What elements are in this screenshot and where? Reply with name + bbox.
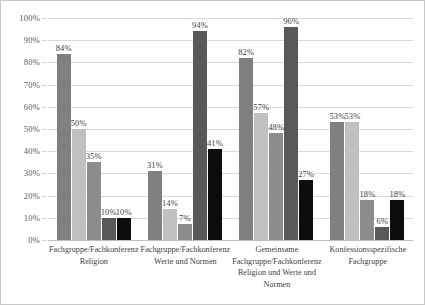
y-axis-tick-label: 80% (24, 57, 40, 67)
bar-value-label: 57% (253, 102, 269, 112)
y-axis-tick-label: 100% (19, 13, 40, 23)
bar-slot: 27% (299, 18, 313, 240)
bar-value-label: 94% (192, 20, 208, 30)
x-axis: Fachgruppe/Fachkonferenz ReligionFachgru… (48, 244, 413, 290)
bar-cluster: 82%57%48%96%27% (231, 18, 322, 240)
bar[interactable] (178, 224, 192, 240)
bar-slot: 6% (375, 18, 389, 240)
bar[interactable] (254, 113, 268, 240)
bar-value-label: 27% (298, 169, 314, 179)
bar[interactable] (345, 122, 359, 240)
bar-value-label: 10% (116, 207, 132, 217)
bar-value-label: 48% (268, 122, 284, 132)
bar-value-label: 96% (283, 16, 299, 26)
plot-area: 84%50%35%10%10%31%14%7%94%41%82%57%48%96… (48, 18, 413, 240)
y-axis-tick-mark (42, 173, 47, 174)
bar-slot: 31% (148, 18, 162, 240)
bar-value-label: 50% (71, 118, 87, 128)
bar[interactable] (208, 149, 222, 240)
bar-slot: 57% (254, 18, 268, 240)
bar-slot: 53% (345, 18, 359, 240)
bar-value-label: 18% (359, 189, 375, 199)
bar-value-label: 6% (377, 216, 389, 226)
bar-value-label: 31% (147, 160, 163, 170)
y-axis-tick-mark (42, 40, 47, 41)
y-axis: 100%90%80%70%60%50%40%30%20%10%0% (1, 18, 48, 240)
bar-group: 31%14%7%94%41% (139, 18, 230, 240)
bar-slot: 10% (117, 18, 131, 240)
x-axis-category-label: Fachgruppe/Fachkonferenz Religion (48, 244, 140, 290)
y-axis-tick-label: 20% (24, 191, 40, 201)
bar-value-label: 7% (179, 213, 191, 223)
bar-value-label: 53% (344, 111, 360, 121)
bar[interactable] (87, 162, 101, 240)
y-axis-tick-label: 70% (24, 80, 40, 90)
bar-cluster: 31%14%7%94%41% (139, 18, 230, 240)
y-axis-tick-mark (42, 18, 47, 19)
bar-value-label: 35% (86, 151, 102, 161)
x-axis-category-label: Fachgruppe/Fachkonferenz Werte und Norme… (140, 244, 232, 290)
y-axis-tick-mark (42, 62, 47, 63)
axis-baseline (48, 240, 413, 241)
bar[interactable] (360, 200, 374, 240)
bar[interactable] (102, 218, 116, 240)
bar[interactable] (148, 171, 162, 240)
bar-value-label: 10% (101, 207, 117, 217)
bar-cluster: 53%53%18%6%18% (322, 18, 413, 240)
bar-slot: 50% (72, 18, 86, 240)
bar[interactable] (299, 180, 313, 240)
bar-group: 82%57%48%96%27% (231, 18, 322, 240)
bar-value-label: 82% (238, 47, 254, 57)
x-axis-category-label: Gemeinsame Fachgruppe/Fachkonferenz Reli… (231, 244, 323, 290)
bar[interactable] (57, 54, 71, 240)
bar-value-label: 41% (207, 138, 223, 148)
bar-slot: 53% (330, 18, 344, 240)
bar[interactable] (117, 218, 131, 240)
bar-group: 84%50%35%10%10% (48, 18, 139, 240)
bar-value-label: 53% (329, 111, 345, 121)
y-axis-tick-mark (42, 107, 47, 108)
y-axis-tick-label: 90% (24, 35, 40, 45)
bar[interactable] (193, 31, 207, 240)
bar-group: 53%53%18%6%18% (322, 18, 413, 240)
bar-groups: 84%50%35%10%10%31%14%7%94%41%82%57%48%96… (48, 18, 413, 240)
y-axis-tick-label: 40% (24, 146, 40, 156)
y-axis-tick-mark (42, 196, 47, 197)
bar-slot: 94% (193, 18, 207, 240)
bar[interactable] (269, 133, 283, 240)
bar[interactable] (239, 58, 253, 240)
bar-slot: 14% (163, 18, 177, 240)
bar[interactable] (163, 209, 177, 240)
x-axis-category-label: Konfessionsspezifische Fachgruppe (323, 244, 413, 290)
bar-value-label: 14% (162, 198, 178, 208)
bar-value-label: 18% (389, 189, 405, 199)
y-axis-tick-mark (42, 151, 47, 152)
bar-slot: 82% (239, 18, 253, 240)
bar[interactable] (375, 227, 389, 240)
bar-slot: 7% (178, 18, 192, 240)
bar-slot: 96% (284, 18, 298, 240)
bar-slot: 84% (57, 18, 71, 240)
bar-slot: 18% (390, 18, 404, 240)
bar[interactable] (72, 129, 86, 240)
bar[interactable] (330, 122, 344, 240)
bar-slot: 18% (360, 18, 374, 240)
bar[interactable] (284, 27, 298, 240)
bar-value-label: 84% (56, 43, 72, 53)
bar-slot: 10% (102, 18, 116, 240)
bar-slot: 41% (208, 18, 222, 240)
y-axis-tick-label: 10% (24, 213, 40, 223)
bar[interactable] (390, 200, 404, 240)
y-axis-tick-label: 50% (24, 124, 40, 134)
bar-slot: 48% (269, 18, 283, 240)
y-axis-tick-mark (42, 240, 47, 241)
bar-cluster: 84%50%35%10%10% (48, 18, 139, 240)
chart-container: 100%90%80%70%60%50%40%30%20%10%0% 84%50%… (0, 0, 425, 305)
bar-slot: 35% (87, 18, 101, 240)
y-axis-tick-mark (42, 129, 47, 130)
y-axis-tick-label: 0% (28, 235, 40, 245)
y-axis-tick-label: 60% (24, 102, 40, 112)
y-axis-tick-mark (42, 85, 47, 86)
y-axis-tick-mark (42, 218, 47, 219)
y-axis-tick-label: 30% (24, 168, 40, 178)
